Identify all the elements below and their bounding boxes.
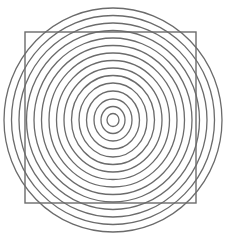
figure-canvas (0, 0, 226, 239)
concentric-circles-diagram (0, 0, 226, 239)
